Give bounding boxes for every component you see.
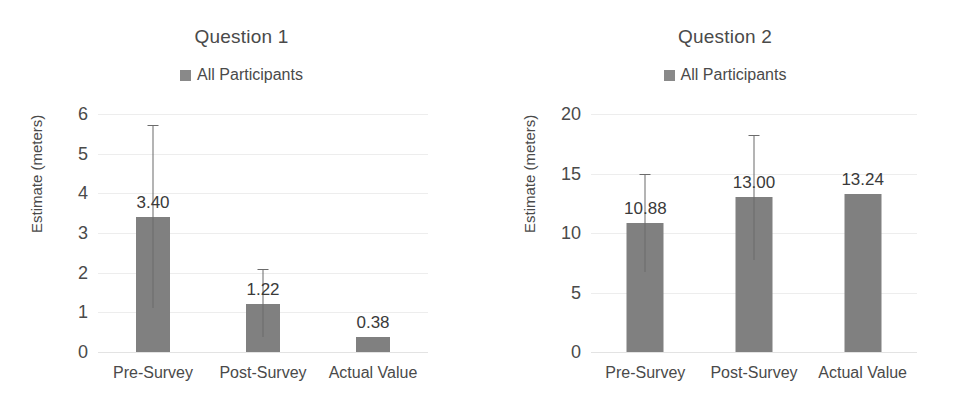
bar-group[interactable]: 0.38Actual Value xyxy=(318,114,428,352)
y-axis-tick-label: 10 xyxy=(561,223,581,244)
error-bar xyxy=(153,125,154,308)
y-axis-tick-label: 5 xyxy=(78,143,88,164)
chart-panel-question-1: Question 1 All Participants Estimate (me… xyxy=(0,0,483,410)
y-axis-tick-label: 4 xyxy=(78,183,88,204)
error-bar-cap-top xyxy=(640,174,651,175)
bar-value-label: 3.40 xyxy=(136,193,169,213)
chart-legend: All Participants xyxy=(483,66,967,84)
y-axis-tick-label: 15 xyxy=(561,163,581,184)
bar[interactable] xyxy=(356,337,390,352)
y-axis-tick-label: 1 xyxy=(78,302,88,323)
bar-group[interactable]: 13.24Actual Value xyxy=(808,114,917,352)
bar-group[interactable]: 1.22Post-Survey xyxy=(208,114,318,352)
legend-label: All Participants xyxy=(681,66,787,84)
legend-swatch-icon xyxy=(664,70,675,81)
y-axis-tick-label: 2 xyxy=(78,262,88,283)
bar-group[interactable]: 10.88Pre-Survey xyxy=(591,114,700,352)
y-axis-tick-label: 3 xyxy=(78,223,88,244)
bar-group[interactable]: 13.00Post-Survey xyxy=(700,114,809,352)
plot-area: 0510152010.88Pre-Survey13.00Post-Survey1… xyxy=(591,114,917,352)
chart-legend: All Participants xyxy=(0,66,483,84)
error-bar xyxy=(645,174,646,272)
legend-label: All Participants xyxy=(197,66,303,84)
chart-panel-question-2: Question 2 All Participants Estimate (me… xyxy=(483,0,967,410)
x-axis-category-label: Post-Survey xyxy=(219,364,306,382)
y-axis-tick-label: 5 xyxy=(571,282,581,303)
x-axis-category-label: Actual Value xyxy=(329,364,418,382)
x-axis-category-label: Actual Value xyxy=(818,364,907,382)
bar-group[interactable]: 3.40Pre-Survey xyxy=(98,114,208,352)
y-axis-tick-label: 0 xyxy=(78,342,88,363)
chart-title: Question 1 xyxy=(0,26,483,48)
bar[interactable] xyxy=(844,194,881,352)
bar-value-label: 0.38 xyxy=(356,313,389,333)
legend-swatch-icon xyxy=(180,70,191,81)
error-bar-cap-top xyxy=(258,269,269,270)
y-axis-title: Estimate (meters) xyxy=(28,115,45,233)
x-axis-category-label: Pre-Survey xyxy=(605,364,685,382)
plot-area: 01234563.40Pre-Survey1.22Post-Survey0.38… xyxy=(98,114,428,352)
bar-value-label: 13.00 xyxy=(733,173,776,193)
bar-value-label: 10.88 xyxy=(624,199,667,219)
bar-value-label: 1.22 xyxy=(246,280,279,300)
y-axis-tick-label: 0 xyxy=(571,342,581,363)
error-bar-cap-top xyxy=(148,125,159,126)
charts-row: Question 1 All Participants Estimate (me… xyxy=(0,0,967,410)
gridline xyxy=(591,352,917,353)
y-axis-tick-label: 6 xyxy=(78,104,88,125)
y-axis-title: Estimate (meters) xyxy=(521,115,538,233)
chart-title: Question 2 xyxy=(483,26,967,48)
gridline xyxy=(98,352,428,353)
x-axis-category-label: Pre-Survey xyxy=(113,364,193,382)
error-bar-cap-top xyxy=(748,135,759,136)
x-axis-category-label: Post-Survey xyxy=(710,364,797,382)
bar-value-label: 13.24 xyxy=(841,170,884,190)
error-bar xyxy=(753,135,754,260)
y-axis-tick-label: 20 xyxy=(561,104,581,125)
